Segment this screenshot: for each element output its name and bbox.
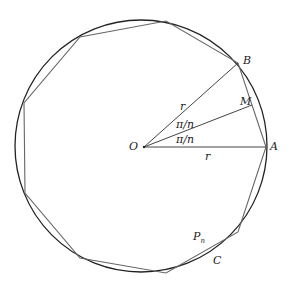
circle-polygon-diagram: O A B M r r π/n π/n Pn C	[0, 0, 294, 288]
diagram-canvas	[0, 0, 294, 288]
label-c: C	[213, 255, 221, 266]
label-angle-upper: π/n	[176, 119, 194, 130]
label-b: B	[243, 55, 251, 66]
label-r-oa: r	[205, 151, 210, 162]
label-pn: Pn	[193, 231, 205, 245]
label-a: A	[270, 141, 278, 152]
label-r-ob: r	[180, 101, 185, 112]
center-point-o	[143, 146, 145, 148]
label-angle-lower: π/n	[176, 134, 194, 145]
segment-om	[144, 105, 252, 147]
label-m: M	[240, 96, 251, 107]
label-pn-subscript: n	[200, 237, 205, 245]
label-o: O	[129, 141, 138, 152]
